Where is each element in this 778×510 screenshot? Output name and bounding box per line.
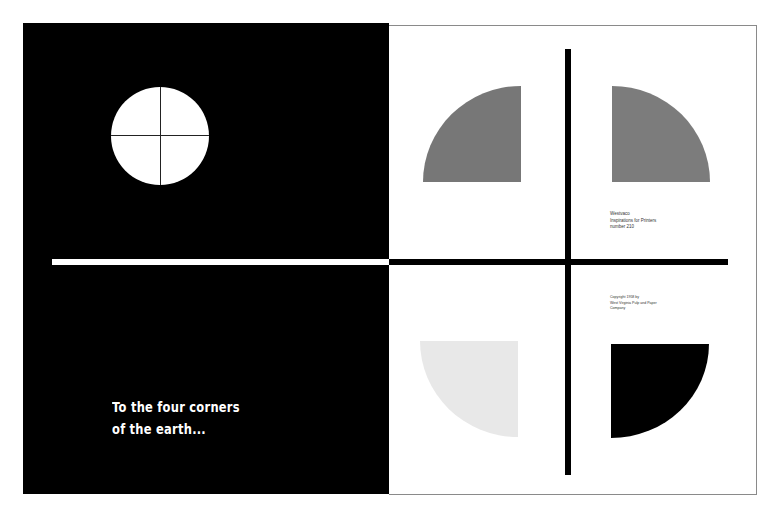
colophon-copyright-line-3: Company bbox=[610, 306, 657, 312]
colophon-publication-line-3: number 210 bbox=[610, 224, 656, 231]
tagline: To the four corners of the earth... bbox=[112, 396, 240, 440]
magazine-spread: To the four corners of the earth... West… bbox=[0, 0, 778, 510]
colophon-publication: Westvaco Inspirations for Printers numbe… bbox=[610, 211, 656, 231]
horizontal-bar-white bbox=[52, 259, 389, 265]
globe-icon bbox=[111, 87, 209, 185]
horizontal-bar-black bbox=[389, 259, 728, 265]
tagline-line-2: of the earth... bbox=[112, 418, 240, 440]
vertical-bar bbox=[565, 49, 571, 475]
globe-vertical-line bbox=[160, 87, 161, 185]
tagline-line-1: To the four corners bbox=[112, 396, 240, 418]
colophon-copyright: Copyright 1958 by West Virginia Pulp and… bbox=[610, 295, 657, 312]
